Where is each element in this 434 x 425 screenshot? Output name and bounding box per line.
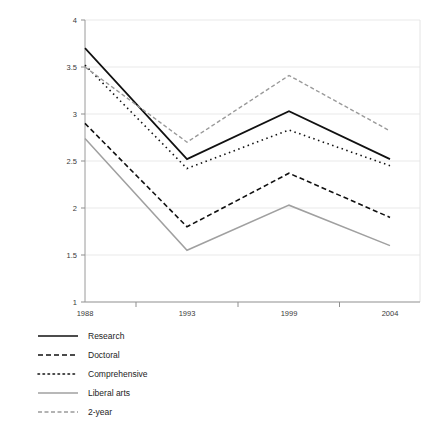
- legend-label: Comprehensive: [88, 369, 148, 379]
- x-tick-labels: 1988199319992004: [77, 309, 399, 318]
- y-tick-marks: [81, 20, 85, 302]
- legend-label: Research: [88, 331, 125, 341]
- x-tick-label: 1999: [281, 309, 298, 318]
- chart-legend: ResearchDoctoralComprehensiveLiberal art…: [38, 331, 148, 417]
- series-line-doctoral: [85, 123, 390, 226]
- x-tick-marks: [136, 302, 340, 307]
- x-tick-label: 2004: [382, 309, 399, 318]
- y-tick-label: 4: [73, 16, 77, 25]
- x-tick-label: 1993: [179, 309, 196, 318]
- line-chart-figure: 11.522.533.54 1988199319992004 ResearchD…: [0, 0, 434, 425]
- legend-label: Liberal arts: [88, 388, 130, 398]
- x-tick-label: 1988: [77, 309, 94, 318]
- legend-label: 2-year: [88, 407, 112, 417]
- y-tick-label: 2: [73, 204, 77, 213]
- y-tick-label: 1: [73, 298, 77, 307]
- gridlines-group: [85, 20, 420, 302]
- data-series-group: [85, 48, 390, 250]
- series-line-liberal-arts: [85, 138, 390, 250]
- y-tick-label: 1.5: [67, 251, 77, 260]
- series-line-2-year: [85, 67, 390, 142]
- series-line-research: [85, 48, 390, 159]
- y-tick-labels: 11.522.533.54: [67, 16, 77, 307]
- y-tick-label: 3.5: [67, 63, 77, 72]
- chart-svg: 11.522.533.54 1988199319992004 ResearchD…: [0, 0, 434, 425]
- y-tick-label: 2.5: [67, 157, 77, 166]
- y-tick-label: 3: [73, 110, 77, 119]
- legend-label: Doctoral: [88, 350, 120, 360]
- series-line-comprehensive: [85, 65, 390, 168]
